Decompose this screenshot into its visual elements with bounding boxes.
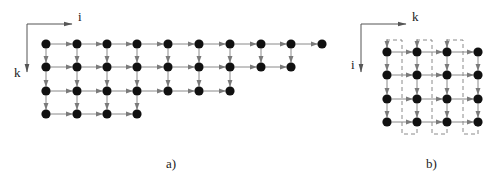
graph-node bbox=[473, 117, 482, 126]
graph-node bbox=[256, 39, 265, 48]
graph-node bbox=[442, 70, 451, 79]
graph-node bbox=[412, 47, 421, 56]
panel-a-axis-k-label: k bbox=[14, 66, 21, 79]
panel-b-caption: b) bbox=[426, 157, 437, 170]
graph-node bbox=[72, 62, 81, 71]
dashed-group-outline bbox=[387, 40, 417, 134]
graph-node bbox=[132, 39, 141, 48]
graph-node bbox=[225, 62, 234, 71]
graph-node bbox=[442, 47, 451, 56]
graph-node bbox=[225, 86, 234, 95]
graph-node bbox=[412, 117, 421, 126]
graph-node bbox=[412, 94, 421, 103]
graph-node bbox=[163, 39, 172, 48]
graph-node bbox=[194, 39, 203, 48]
graph-node bbox=[194, 62, 203, 71]
graph-node bbox=[41, 109, 50, 118]
graph-node bbox=[102, 39, 111, 48]
graph-node bbox=[41, 62, 50, 71]
graph-node bbox=[132, 86, 141, 95]
graph-node bbox=[382, 70, 391, 79]
graph-node bbox=[163, 62, 172, 71]
graph-node bbox=[41, 86, 50, 95]
panel-a-caption: a) bbox=[166, 157, 176, 170]
graph-node bbox=[286, 39, 295, 48]
panel-b-axis-i-label: i bbox=[351, 58, 355, 71]
graph-node bbox=[102, 109, 111, 118]
graph-node bbox=[72, 86, 81, 95]
graph-node bbox=[132, 62, 141, 71]
graph-node bbox=[286, 62, 295, 71]
dashed-group-outline bbox=[417, 40, 447, 134]
graph-node bbox=[382, 94, 391, 103]
graph-node bbox=[102, 86, 111, 95]
dashed-group-outline bbox=[447, 40, 478, 134]
graph-node bbox=[317, 39, 326, 48]
graph-node bbox=[225, 39, 234, 48]
graph-node bbox=[473, 47, 482, 56]
graph-node bbox=[194, 86, 203, 95]
graph-node bbox=[41, 39, 50, 48]
panel-a-axis-i-label: i bbox=[78, 10, 82, 23]
panel-b-axis-k-label: k bbox=[412, 10, 419, 23]
graph-node bbox=[382, 47, 391, 56]
graph-node bbox=[163, 86, 172, 95]
graph-node bbox=[442, 94, 451, 103]
diagram-canvas bbox=[0, 0, 500, 182]
graph-node bbox=[382, 117, 391, 126]
graph-node bbox=[256, 62, 265, 71]
graph-node bbox=[72, 39, 81, 48]
panel-a-graph bbox=[27, 24, 327, 119]
panel-b-graph bbox=[361, 24, 483, 134]
graph-node bbox=[442, 117, 451, 126]
graph-node bbox=[473, 70, 482, 79]
graph-node bbox=[72, 109, 81, 118]
graph-node bbox=[473, 94, 482, 103]
graph-node bbox=[412, 70, 421, 79]
graph-node bbox=[132, 109, 141, 118]
graph-node bbox=[102, 62, 111, 71]
